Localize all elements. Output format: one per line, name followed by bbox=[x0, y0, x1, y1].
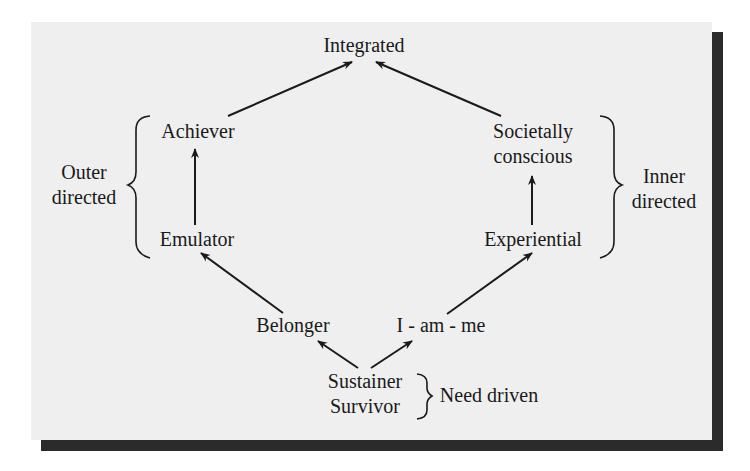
arrow-societal-integrated bbox=[376, 62, 501, 116]
node-achiever: Achiever bbox=[161, 120, 234, 142]
group-inner-2: directed bbox=[632, 190, 696, 212]
brace-inner-directed bbox=[600, 116, 622, 258]
node-survivor: Survivor bbox=[330, 395, 400, 417]
node-integrated: Integrated bbox=[323, 34, 404, 56]
arrow-achiever-integrated bbox=[228, 62, 352, 116]
arrow-iamme-experiential bbox=[447, 253, 532, 314]
node-belonger: Belonger bbox=[256, 314, 329, 336]
arrow-sustainer-iamme bbox=[371, 341, 412, 368]
arrow-belonger-emulator bbox=[201, 253, 283, 313]
group-outer-2: directed bbox=[52, 186, 116, 208]
node-emulator: Emulator bbox=[160, 228, 234, 250]
group-inner-1: Inner bbox=[643, 165, 685, 187]
group-outer-1: Outer bbox=[61, 161, 107, 183]
node-sustainer: Sustainer bbox=[328, 370, 402, 392]
brace-outer-directed bbox=[128, 116, 150, 258]
arrow-sustainer-belonger bbox=[318, 341, 358, 368]
brace-need-driven bbox=[417, 374, 432, 419]
node-experiential: Experiential bbox=[484, 228, 582, 250]
node-societally-1: Societally bbox=[493, 120, 573, 142]
node-societally-2: conscious bbox=[494, 145, 573, 167]
group-need-driven: Need driven bbox=[440, 384, 538, 406]
node-i-am-me: I - am - me bbox=[397, 314, 486, 336]
